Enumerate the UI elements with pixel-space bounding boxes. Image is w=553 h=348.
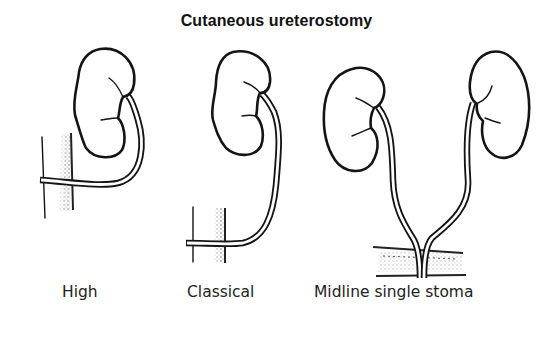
- kidney-high: [74, 49, 134, 158]
- kidney-classical: [212, 51, 270, 155]
- panel-high: [40, 49, 141, 218]
- caption-midline: Midline single stoma: [314, 283, 473, 301]
- abdominal-wall-high: [42, 133, 73, 218]
- panel-classical: [186, 51, 279, 263]
- kidney-left-midline: [324, 68, 384, 171]
- caption-classical: Classical: [187, 283, 254, 301]
- abdominal-wall-classical: [193, 207, 225, 263]
- caption-high: High: [62, 283, 98, 301]
- panel-midline: [324, 52, 529, 278]
- kidney-right-midline: [470, 52, 529, 158]
